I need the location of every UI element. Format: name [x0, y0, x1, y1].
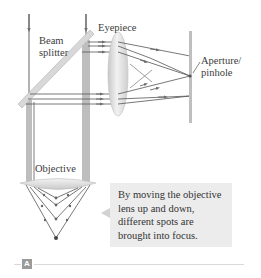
aperture-leader-line — [193, 62, 200, 73]
panel-rule-left — [14, 264, 21, 265]
objective-label: Objective — [35, 163, 76, 175]
converging-rays — [118, 42, 190, 104]
focus-callout: By moving the objective lens up and down… — [110, 183, 232, 247]
panel-letter-badge: A — [22, 259, 32, 269]
callout-line-2: lens up and down, — [118, 202, 226, 216]
vertical-beams — [27, 40, 89, 182]
aperture-label-line2: pinhole — [201, 67, 241, 79]
panel-rule — [34, 264, 244, 265]
aperture-label: Aperture/ pinhole — [201, 55, 241, 79]
beam-splitter-label-line1: Beam — [39, 35, 68, 47]
eyepiece-label: Eyepiece — [98, 22, 136, 34]
aperture-label-line1: Aperture/ — [201, 55, 241, 67]
beam-splitter-label: Beam splitter — [39, 35, 68, 59]
callout-line-3: different spots are — [118, 215, 226, 229]
callout-line-4: brought into focus. — [118, 229, 226, 243]
callout-pointer — [101, 208, 110, 218]
focus-points — [41, 194, 71, 240]
pinhole-focus-point — [188, 74, 191, 77]
focus-cone — [26, 185, 90, 238]
beam-splitter-label-line2: splitter — [39, 47, 68, 59]
callout-line-1: By moving the objective — [118, 188, 226, 202]
